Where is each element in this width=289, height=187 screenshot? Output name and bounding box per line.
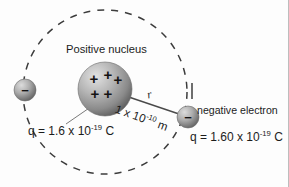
plus-icon: + <box>114 71 123 88</box>
nucleus-label: Positive nucleus <box>66 44 147 56</box>
nucleus-charge-exponent: -19 <box>91 123 102 132</box>
diagram-canvas: + + + + + − − <box>0 0 289 187</box>
nucleus-charge-label: q = 1.6 x 10-19 C <box>28 124 114 138</box>
electron-charge-exponent: -19 <box>260 129 271 138</box>
nucleus-charge-unit: C <box>102 124 114 138</box>
electron-charge-label: q = 1.60 x 10-19 C <box>190 130 283 144</box>
electron-label: negative electron <box>197 105 278 116</box>
minus-icon: − <box>184 110 192 125</box>
electron-charge-value: q = 1.60 x 10 <box>190 130 260 144</box>
physics-diagram-figure: + + + + + − − Positive nucleus negative … <box>0 0 289 187</box>
electron-charge-unit: C <box>271 130 283 144</box>
plus-icon: + <box>91 85 100 102</box>
minus-icon: − <box>21 83 29 98</box>
plus-icon: + <box>104 66 113 83</box>
plus-icon: + <box>104 85 113 102</box>
nucleus-charge-value: q = 1.6 x 10 <box>28 124 91 138</box>
